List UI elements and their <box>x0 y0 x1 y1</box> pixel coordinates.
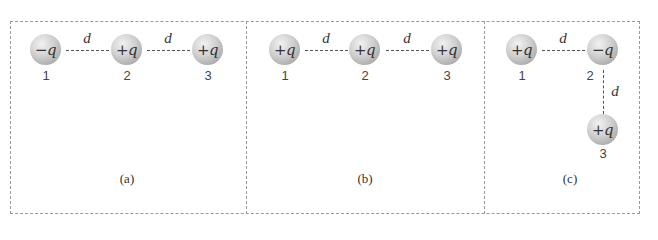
charge-ball-b2: +q <box>349 34 380 65</box>
separation-line-b12 <box>305 50 348 51</box>
panel-caption-a: (a) <box>120 171 134 187</box>
charge-index-a3: 3 <box>204 68 211 83</box>
charge-index-c3: 3 <box>599 146 606 161</box>
panel-caption-b: (b) <box>357 171 372 187</box>
charge-ball-a2: +q <box>111 34 142 65</box>
charge-index-b1: 1 <box>281 68 288 83</box>
charge-ball-a1: −q <box>30 34 61 65</box>
separation-line-a23 <box>147 50 190 51</box>
panel-divider-bc <box>484 21 485 214</box>
separation-line-b23 <box>386 50 429 51</box>
charge-ball-c2: −q <box>587 34 618 65</box>
charge-index-c2: 2 <box>586 68 593 83</box>
charge-index-a2: 2 <box>123 68 130 83</box>
separation-label-b23: d <box>403 30 411 47</box>
charge-ball-c3: +q <box>587 114 618 145</box>
separation-label-a12: d <box>83 30 91 47</box>
panel-caption-c: (c) <box>563 171 577 187</box>
separation-label-c23: d <box>611 83 619 100</box>
charge-index-a1: 1 <box>42 68 49 83</box>
separation-label-a23: d <box>164 30 172 47</box>
charge-ball-a3: +q <box>192 34 223 65</box>
separation-label-c12: d <box>559 30 567 47</box>
charge-index-b2: 2 <box>361 68 368 83</box>
charge-ball-b1: +q <box>269 34 300 65</box>
charge-ball-c1: +q <box>506 34 537 65</box>
separation-line-c23 <box>603 70 604 114</box>
separation-label-b12: d <box>322 30 330 47</box>
separation-line-c12 <box>542 50 585 51</box>
charge-index-c1: 1 <box>518 68 525 83</box>
panel-divider-ab <box>246 21 247 214</box>
charge-ball-b3: +q <box>431 34 462 65</box>
separation-line-a12 <box>66 50 109 51</box>
charge-index-b3: 3 <box>443 68 450 83</box>
